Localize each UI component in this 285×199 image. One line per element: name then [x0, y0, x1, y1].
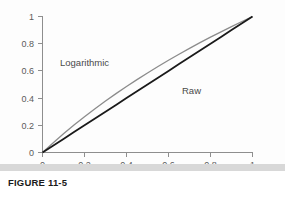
chart-plot-area: 1 0.8 0.6 0.4 0.2 0 0 0.2 0.4 0.6 0.8 1 … — [0, 0, 285, 171]
x-axis-ticks — [43, 153, 253, 158]
y-tick-label-0: 0 — [29, 148, 34, 158]
y-tick-label-1: 0.2 — [21, 121, 34, 131]
figure-page: 1 0.8 0.6 0.4 0.2 0 0 0.2 0.4 0.6 0.8 1 … — [0, 0, 285, 199]
figure-bottom-rule — [0, 164, 285, 171]
y-axis-ticks — [38, 17, 43, 153]
y-tick-label-5: 1 — [29, 12, 34, 22]
y-tick-label-3: 0.6 — [21, 66, 34, 76]
y-tick-label-2: 0.4 — [21, 94, 34, 104]
chart-figure: 1 0.8 0.6 0.4 0.2 0 0 0.2 0.4 0.6 0.8 1 … — [0, 0, 285, 171]
y-tick-label-4: 0.8 — [21, 39, 34, 49]
figure-caption: FIGURE 11-5 — [8, 177, 67, 188]
series-label-raw: Raw — [182, 85, 201, 96]
series-label-logarithmic: Logarithmic — [60, 57, 109, 68]
series-line-raw — [43, 17, 253, 153]
